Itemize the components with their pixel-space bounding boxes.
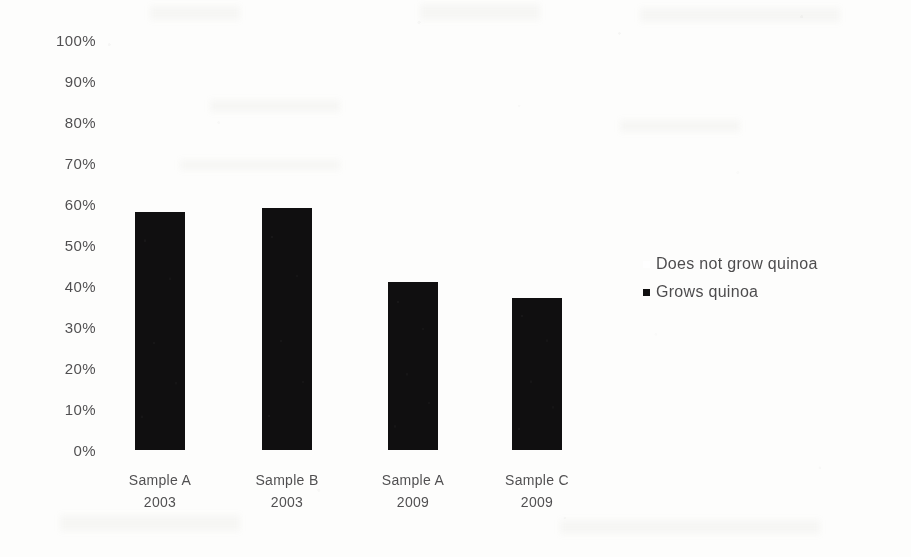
scan-smudge xyxy=(560,520,820,534)
bar-sample-c-2009[interactable] xyxy=(512,298,562,450)
legend-item-label: Does not grow quinoa xyxy=(656,255,818,273)
x-axis-category-year: 2003 xyxy=(222,492,352,514)
legend-item-grows-quinoa[interactable]: Grows quinoa xyxy=(643,278,903,306)
bar-sample-b-2003[interactable] xyxy=(262,208,312,450)
x-axis-category-name: Sample B xyxy=(222,470,352,492)
y-axis: 100% 90% 80% 70% 60% 50% 40% 30% 20% 10%… xyxy=(0,0,96,557)
x-axis-category-year: 2009 xyxy=(348,492,478,514)
y-tick-label: 0% xyxy=(0,442,96,459)
x-axis-category-name: Sample C xyxy=(472,470,602,492)
x-axis-label-3: Sample C 2009 xyxy=(472,470,602,513)
x-axis-category-year: 2009 xyxy=(472,492,602,514)
legend-item-does-not-grow-quinoa[interactable]: Does not grow quinoa xyxy=(643,250,903,278)
x-axis-category-name: Sample A xyxy=(348,470,478,492)
legend-item-label: Grows quinoa xyxy=(656,283,758,301)
y-tick-label: 70% xyxy=(0,155,96,172)
y-tick-label: 40% xyxy=(0,278,96,295)
plot-area xyxy=(100,40,600,450)
scan-smudge xyxy=(620,120,740,132)
y-tick-label: 10% xyxy=(0,401,96,418)
scan-smudge xyxy=(420,4,540,20)
y-tick-label: 20% xyxy=(0,360,96,377)
bar-sample-a-2009[interactable] xyxy=(388,282,438,450)
bar-sample-a-2003[interactable] xyxy=(135,212,185,450)
legend-swatch-icon xyxy=(643,261,650,268)
y-tick-label: 50% xyxy=(0,237,96,254)
legend: Does not grow quinoa Grows quinoa xyxy=(643,250,903,306)
y-tick-label: 30% xyxy=(0,319,96,336)
x-axis-category-name: Sample A xyxy=(95,470,225,492)
y-tick-label: 100% xyxy=(0,32,96,49)
x-axis-category-year: 2003 xyxy=(95,492,225,514)
y-tick-label: 80% xyxy=(0,114,96,131)
y-tick-label: 60% xyxy=(0,196,96,213)
bar-chart: 100% 90% 80% 70% 60% 50% 40% 30% 20% 10%… xyxy=(0,0,911,557)
y-tick-label: 90% xyxy=(0,73,96,90)
scan-smudge xyxy=(640,8,840,22)
x-axis-label-0: Sample A 2003 xyxy=(95,470,225,513)
scan-smudge xyxy=(150,6,240,20)
x-axis-label-1: Sample B 2003 xyxy=(222,470,352,513)
x-axis-label-2: Sample A 2009 xyxy=(348,470,478,513)
legend-swatch-icon xyxy=(643,289,650,296)
